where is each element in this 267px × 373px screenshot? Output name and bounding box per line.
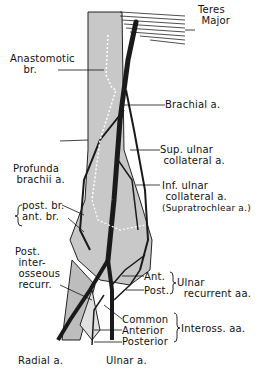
label-post-interosseous-recurrent: Post. inter- osseous recurr. <box>15 246 60 290</box>
label-interosseous-group: Inteross. aa. <box>181 323 245 334</box>
label-text: collateral a. <box>165 191 226 202</box>
label-text: ant. br. <box>22 211 59 222</box>
label-ulnar-recurrent-post: Post. <box>144 285 169 296</box>
label-profunda-branches: post. br.ant. br. <box>22 200 64 222</box>
label-text: recurrent aa. <box>184 288 251 299</box>
label-text: inter- <box>18 257 45 268</box>
label-radial-artery: Radial a. <box>18 355 63 366</box>
ulnar-artery <box>108 260 112 340</box>
label-text: (Supratrochlear a.) <box>162 203 251 213</box>
label-sup-ulnar-collateral: Sup. ulnar collateral a. <box>160 144 225 166</box>
label-text: collateral a. <box>163 155 224 166</box>
anatomy-diagram: Teres Major Anastomotic br. Brachial a. … <box>0 0 267 373</box>
label-text: brachii a. <box>16 174 64 185</box>
label-text: br. <box>24 64 37 75</box>
label-text: Teres <box>198 4 225 15</box>
label-ulnar-artery: Ulnar a. <box>106 355 147 366</box>
label-interosseous-posterior: Posterior <box>122 336 168 347</box>
label-text: Sup. ulnar <box>160 144 213 155</box>
label-anastomotic-branch: Anastomotic br. <box>10 53 75 75</box>
label-profunda-brachii: Profunda brachii a. <box>13 163 65 185</box>
label-teres-major: Teres Major <box>198 4 230 26</box>
label-ulnar-recurrent-group: Ulnar recurrent aa. <box>177 277 251 299</box>
label-ulnar-recurrent-ant: Ant. <box>144 271 165 282</box>
label-inf-ulnar-collateral: Inf. ulnar collateral a.(Supratrochlear … <box>162 180 251 214</box>
label-text: Inf. ulnar <box>162 180 208 191</box>
label-text: Profunda <box>13 163 59 174</box>
label-interosseous-anterior: Anterior <box>122 325 164 336</box>
label-text: Major <box>201 15 230 26</box>
teres-major-muscle <box>120 12 185 44</box>
label-text: Post. <box>15 246 40 257</box>
label-text: post. br. <box>22 200 64 211</box>
label-brachial-artery: Brachial a. <box>165 99 220 110</box>
label-text: Anastomotic <box>10 53 75 64</box>
label-text: Ulnar <box>177 277 205 288</box>
label-text: recurr. <box>18 279 52 290</box>
label-interosseous-common: Common <box>122 314 168 325</box>
label-text: osseous <box>18 268 60 279</box>
